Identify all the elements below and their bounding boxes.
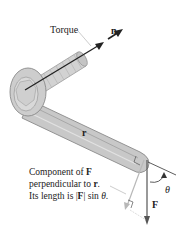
normal-vector-label: n <box>111 26 117 36</box>
wrench-torque-diagram <box>0 0 195 239</box>
caption-leader-line <box>110 186 126 194</box>
caption-line-1: Component of F <box>29 166 108 178</box>
caption-line-2: perpendicular to r. <box>29 178 108 190</box>
caption-line-3: Its length is |F| sin θ. <box>29 190 108 202</box>
torque-label: Torque <box>50 25 78 35</box>
position-vector-label: r <box>82 128 86 138</box>
angle-label: θ <box>165 185 170 195</box>
force-vector <box>144 160 176 225</box>
caption: Component of F perpendicular to r. Its l… <box>29 166 108 202</box>
torque-leader-line <box>78 31 91 46</box>
wrench <box>10 68 149 173</box>
force-label: F <box>152 200 158 210</box>
